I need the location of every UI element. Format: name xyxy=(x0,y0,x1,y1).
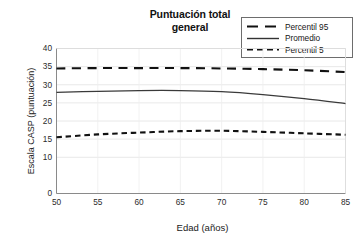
gridlines xyxy=(57,49,346,194)
x-tick-label: 65 xyxy=(165,197,195,207)
y-axis-label: Escala CASP (puntuación) xyxy=(26,41,36,201)
chart-figure: Puntuación total general Percentil 95 Pr… xyxy=(0,0,358,245)
x-tick-label: 70 xyxy=(207,197,237,207)
x-tick-label: 55 xyxy=(83,197,113,207)
x-tick-label: 85 xyxy=(331,197,358,207)
series-line-promedio xyxy=(57,90,346,103)
x-tick-label: 75 xyxy=(248,197,278,207)
x-tick-label: 50 xyxy=(42,197,72,207)
series-line-percentil-95 xyxy=(57,68,346,72)
plot-canvas xyxy=(0,0,358,245)
series-line-percentil-5 xyxy=(57,131,346,138)
plot-area: 010152025303540 5055606570758085 xyxy=(0,0,358,245)
x-tick-label: 60 xyxy=(124,197,154,207)
x-axis-label: Edad (años) xyxy=(55,222,350,233)
x-tick-label: 80 xyxy=(289,197,319,207)
